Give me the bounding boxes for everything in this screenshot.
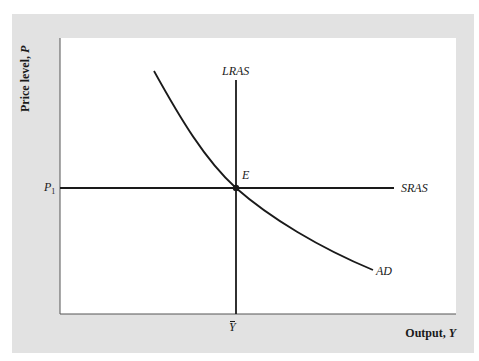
equilibrium-point [233,185,239,191]
y-axis-label: Price level, P [18,46,33,112]
lras-label: LRAS [222,64,249,79]
sras-label: SRAS [401,181,428,196]
plot-area [60,38,456,314]
y-bar-tick-label: Y [229,320,236,335]
x-axis-label: Output, Y [405,326,456,341]
p1-tick-label: P1 [44,180,55,196]
e-label: E [242,168,249,183]
ad-label: AD [376,264,392,279]
